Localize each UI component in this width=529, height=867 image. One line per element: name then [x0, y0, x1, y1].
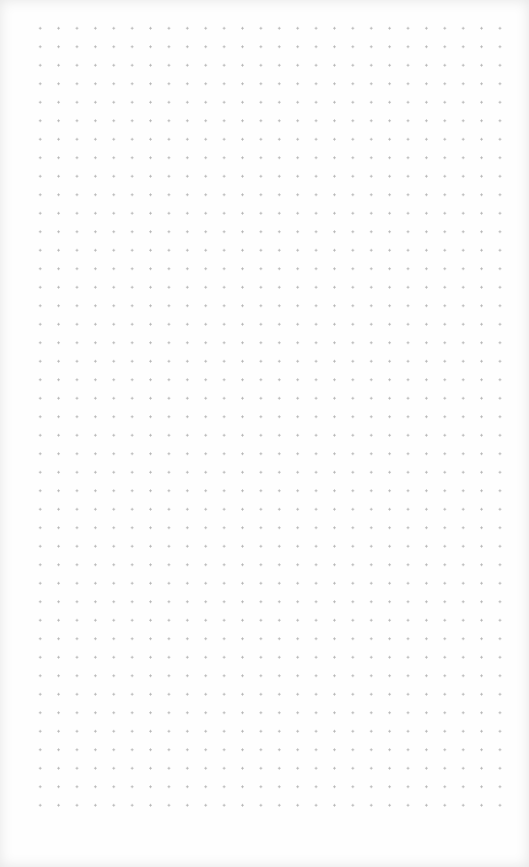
dot-grid-pattern [31, 19, 513, 819]
dot-grid-page [0, 0, 529, 867]
